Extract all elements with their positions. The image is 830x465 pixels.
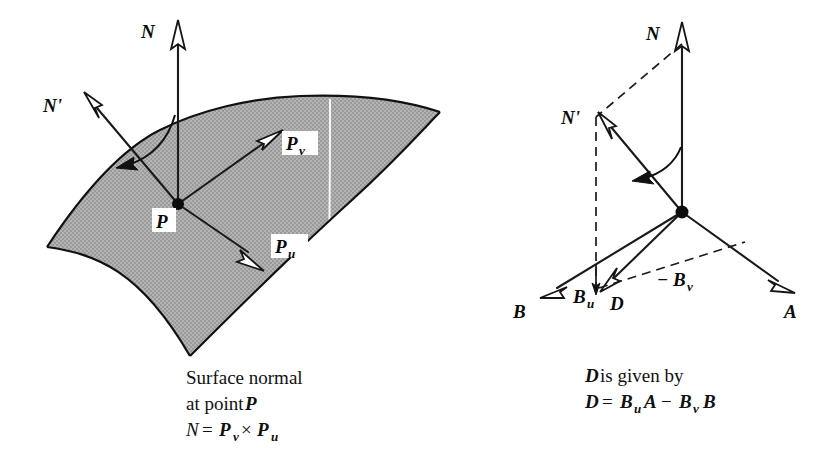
figure-root: N N' P v P u xyxy=(0,0,830,465)
vector-Nprime-left-arrowhead xyxy=(84,92,102,118)
vector-Nprime-right-arrowhead xyxy=(598,112,616,139)
surface-patch-fill xyxy=(47,96,440,356)
vector-D-shaft xyxy=(614,212,682,278)
label-Bu-subscript: u xyxy=(587,296,594,311)
label-minus-Bv-group: − B v xyxy=(657,269,693,294)
label-Bu: B xyxy=(572,286,586,307)
perturbation-vectors-panel: N N' A B xyxy=(512,22,797,416)
label-N-right: N xyxy=(645,23,661,44)
label-D: D xyxy=(609,293,624,314)
rotation-arc-right xyxy=(632,147,681,184)
label-P: P xyxy=(155,211,168,232)
surface-normal-panel: N N' P v P u xyxy=(42,20,440,444)
right-caption-A: A xyxy=(643,391,657,412)
left-caption-times: × xyxy=(241,419,252,440)
label-Pu-subscript: u xyxy=(288,246,295,261)
right-caption-minus: − xyxy=(661,391,672,412)
label-B: B xyxy=(512,301,526,322)
label-Pv: P xyxy=(285,133,298,154)
label-Bv: B xyxy=(672,269,686,290)
surface-patch xyxy=(47,96,440,356)
label-Nprime-left: N' xyxy=(42,95,62,116)
dashed-N-to-Nprime xyxy=(596,44,682,117)
label-Nprime-right: N' xyxy=(560,107,580,128)
diagram-canvas: N N' P v P u xyxy=(0,0,830,465)
left-caption-Pv: P xyxy=(218,419,231,440)
left-caption-N: N xyxy=(185,419,200,440)
isoparametric-curve xyxy=(329,99,330,258)
right-caption-Bv-sub: v xyxy=(693,401,699,416)
vector-B-arrowhead xyxy=(540,287,567,298)
vector-N-left-arrowhead xyxy=(171,20,185,49)
right-caption-line1: D is given by xyxy=(584,365,684,386)
label-minus-sign: − xyxy=(657,269,669,290)
vector-D: D xyxy=(600,212,682,314)
vector-B: B xyxy=(512,212,682,322)
vector-Nprime-right: N' xyxy=(560,107,682,212)
right-caption-D: D xyxy=(584,365,599,386)
left-caption-line1: Surface normal xyxy=(186,367,303,388)
right-caption-Bv: B xyxy=(678,391,692,412)
right-caption-B: B xyxy=(702,391,716,412)
right-caption-Bu-sub: u xyxy=(634,401,641,416)
label-Pv-subscript: v xyxy=(299,143,305,158)
label-N-left: N xyxy=(140,21,156,42)
vector-D-arrowhead xyxy=(600,268,620,292)
label-Pu: P xyxy=(274,236,287,257)
left-caption-Pu-sub: u xyxy=(271,429,278,444)
label-A: A xyxy=(783,301,797,322)
label-Bv-subscript: v xyxy=(687,279,693,294)
right-caption-isgivenby: is given by xyxy=(600,365,684,386)
left-caption-Pu: P xyxy=(256,419,269,440)
left-caption-line2a: at point xyxy=(186,393,244,414)
right-caption-D2: D xyxy=(584,391,599,412)
vector-N-right-arrowhead xyxy=(675,22,689,51)
right-caption-line2: D = B u A − B v B xyxy=(584,391,716,416)
right-caption-Bu: B xyxy=(619,391,633,412)
marker-Bu: B u xyxy=(572,265,600,311)
left-caption-Pv-sub: v xyxy=(233,429,239,444)
right-caption: D is given by D = B u A − B v B xyxy=(584,365,716,416)
left-caption-line3: N = P v × P u xyxy=(185,419,278,444)
right-caption-equals: = xyxy=(602,391,613,412)
vector-A: A xyxy=(682,212,797,322)
origin-dot-right xyxy=(676,206,689,219)
vector-A-arrowhead xyxy=(768,280,795,293)
vector-Nprime-right-shaft xyxy=(611,127,682,212)
left-caption-equals: = xyxy=(202,419,213,440)
left-caption: Surface normal at point P N = P v × P u xyxy=(185,367,303,444)
left-caption-line2b: P xyxy=(244,393,257,414)
